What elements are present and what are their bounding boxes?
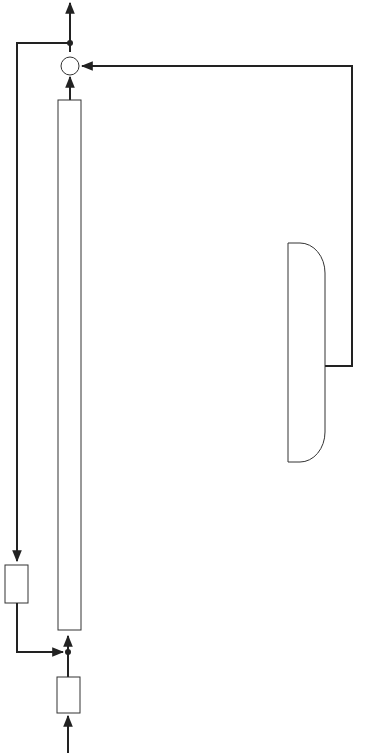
gate2-output-line [17, 603, 63, 652]
gate1-box [57, 677, 80, 713]
output-xor [61, 57, 79, 75]
gate2-box [5, 565, 28, 603]
majority-logic-decoder-diagram [0, 0, 373, 753]
shift-register [58, 100, 81, 630]
majority-gate [288, 243, 325, 462]
